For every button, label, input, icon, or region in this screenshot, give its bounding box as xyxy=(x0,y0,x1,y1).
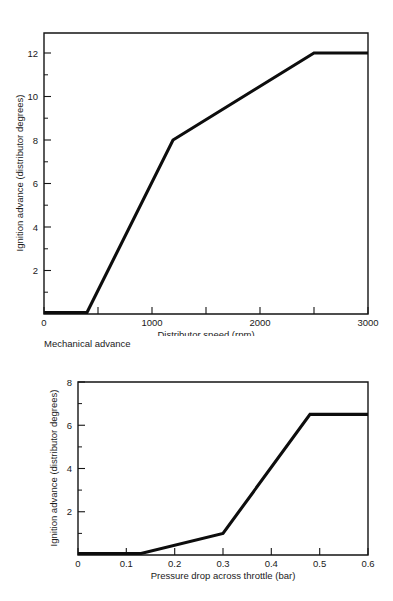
x-tick-label-1000: 1000 xyxy=(141,317,162,328)
y-tick-label-10: 10 xyxy=(27,91,38,102)
axes-frame-vacuum xyxy=(78,382,368,555)
x-tick-label-0.2: 0.2 xyxy=(168,558,181,569)
axes-frame-mechanical xyxy=(44,33,368,314)
y-tick-label-6: 6 xyxy=(67,420,72,431)
y-axis-title-mechanical: Ignition advance (distributor degrees) xyxy=(14,95,25,252)
y-tick-label-4: 4 xyxy=(33,222,38,233)
x-tick-label-0.4: 0.4 xyxy=(265,558,278,569)
y-axis-ticks-mechanical xyxy=(44,53,51,292)
plot-frame xyxy=(78,382,368,555)
x-tick-label-0.3: 0.3 xyxy=(216,558,229,569)
y-axis-ticks-vacuum xyxy=(78,382,85,533)
figure-mechanical-advance: 12 10 8 6 4 2 0 1000 2000 3000 Distribut… xyxy=(0,0,393,360)
y-axis-tick-labels-mechanical: 12 10 8 6 4 2 xyxy=(27,48,38,277)
y-axis-tick-labels-vacuum: 8 6 4 2 xyxy=(67,377,72,518)
y-tick-label-2: 2 xyxy=(33,265,38,276)
plot-area-vacuum: 8 6 4 2 0 0.1 0.2 0.3 0.4 0.5 0.6 Pressu… xyxy=(0,360,393,601)
plot-area-mechanical: 12 10 8 6 4 2 0 1000 2000 3000 Distribut… xyxy=(0,0,393,336)
y-tick-label-12: 12 xyxy=(27,48,38,59)
y-tick-label-4: 4 xyxy=(67,463,72,474)
x-tick-label-2000: 2000 xyxy=(249,317,270,328)
y-tick-label-6: 6 xyxy=(33,178,38,189)
data-series-mechanical-advance xyxy=(44,53,368,313)
y-tick-label-8: 8 xyxy=(67,377,72,388)
chart-vacuum-advance: 8 6 4 2 0 0.1 0.2 0.3 0.4 0.5 0.6 Pressu… xyxy=(0,360,393,601)
caption-mechanical-advance: Mechanical advance xyxy=(44,338,131,349)
y-tick-label-8: 8 xyxy=(33,135,38,146)
x-axis-ticks-mechanical xyxy=(44,307,368,314)
x-tick-label-0.1: 0.1 xyxy=(120,558,133,569)
x-tick-label-0: 0 xyxy=(41,317,46,328)
plot-frame xyxy=(44,33,368,314)
x-axis-title-mechanical: Distributor speed (rpm) xyxy=(157,329,254,336)
x-tick-label-0.6: 0.6 xyxy=(361,558,374,569)
y-axis-title-vacuum: Ignition advance (distributor degrees) xyxy=(48,390,59,547)
data-series-vacuum-advance xyxy=(78,414,368,553)
x-axis-title-vacuum: Pressure drop across throttle (bar) xyxy=(151,570,296,581)
chart-mechanical-advance: 12 10 8 6 4 2 0 1000 2000 3000 Distribut… xyxy=(0,0,393,336)
figure-vacuum-advance: 8 6 4 2 0 0.1 0.2 0.3 0.4 0.5 0.6 Pressu… xyxy=(0,360,393,601)
y-tick-label-2: 2 xyxy=(67,506,72,517)
x-tick-label-3000: 3000 xyxy=(357,317,378,328)
x-axis-tick-labels-mechanical: 0 1000 2000 3000 xyxy=(41,317,378,328)
x-tick-label-0.5: 0.5 xyxy=(313,558,326,569)
x-axis-tick-labels-vacuum: 0 0.1 0.2 0.3 0.4 0.5 0.6 xyxy=(75,558,374,569)
x-tick-label-0: 0 xyxy=(75,558,80,569)
